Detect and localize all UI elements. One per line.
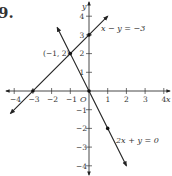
graph-figure: 9. −4 −3 −2 −1 [0, 0, 172, 176]
x-tick-label: −4 [10, 95, 21, 104]
problem-number: 9. [0, 4, 14, 22]
y-tick-label: 4 [80, 12, 85, 21]
equation-label-line2: 2x + y = 0 [115, 136, 159, 145]
x-tick-label: −3 [29, 95, 40, 104]
y-tick-label: 3 [80, 31, 85, 40]
x-tick-label: 1 [106, 95, 111, 104]
y-tick-label: −4 [76, 162, 87, 171]
x-tick-label: −2 [47, 95, 58, 104]
y-tick-label: −2 [76, 124, 87, 133]
coordinate-plane: 9. −4 −3 −2 −1 [0, 0, 172, 176]
y-tick-label: 2 [80, 49, 85, 58]
origin-label: O [80, 95, 87, 104]
y-tick-label: −1 [76, 106, 87, 115]
intersection-label: (−1, 2) [43, 49, 70, 58]
equation-label-line1: x − y = −3 [101, 24, 145, 33]
x-axis-label: x [166, 95, 171, 104]
x-tick-label: 3 [143, 95, 148, 104]
y-axis-label: y [81, 2, 87, 11]
point-0-3 [87, 33, 91, 37]
x-tick-label: −1 [66, 95, 77, 104]
y-tick-label: −3 [76, 143, 87, 152]
point-neg3-0 [31, 89, 35, 93]
x-tick-label: 2 [124, 95, 129, 104]
point-1-neg2 [106, 127, 110, 131]
point-origin [87, 89, 91, 93]
